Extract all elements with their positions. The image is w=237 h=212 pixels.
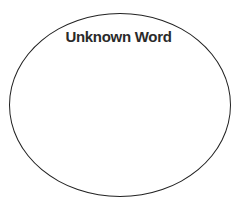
oval-title: Unknown Word [0, 28, 237, 45]
